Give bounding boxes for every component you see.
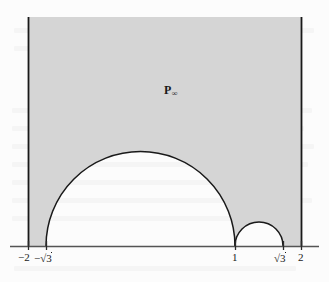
region-label-base: P: [164, 83, 171, 97]
tick-label-one: 1: [232, 252, 238, 263]
tick-label-minus-2: −2: [18, 252, 30, 263]
tick-label-one-text: 1: [232, 251, 238, 263]
radical-overbar-right: [285, 252, 286, 253]
radicand-right-text: 3: [280, 252, 286, 264]
fundamental-domain-plot: [0, 0, 329, 282]
shaded-region: [28, 17, 302, 246]
radicand-left-text: 3: [46, 252, 52, 264]
tick-label-two: 2: [298, 252, 304, 263]
figure-canvas: P∞ −2 −√3 1 √3 2: [0, 0, 329, 282]
tick-label-sqrt3: √3: [274, 252, 286, 264]
tick-label-minus-sqrt3: −√3: [34, 252, 52, 264]
radicand-left: 3: [46, 252, 52, 264]
tick-label-two-text: 2: [298, 251, 304, 263]
radical-overbar-left: [51, 252, 52, 253]
radicand-right: 3: [280, 252, 286, 264]
region-label-p-infinity: P∞: [164, 84, 177, 98]
region-label-subscript: ∞: [172, 89, 177, 98]
tick-label-minus-2-text: −2: [18, 251, 30, 263]
